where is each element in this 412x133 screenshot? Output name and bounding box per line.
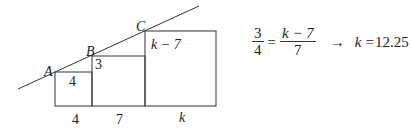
proportion-equation: 3 4 = k − 7 7 → k = 12.25 [250, 22, 409, 62]
middle-square-inner-label: 3 [95, 57, 102, 72]
result-value: 12.25 [375, 34, 409, 51]
result-variable: k [355, 34, 362, 51]
large-square-base-label: k [179, 110, 186, 125]
result-equals-sign: = [365, 34, 373, 51]
small-square-base-label: 4 [72, 112, 79, 127]
left-fraction: 3 4 [252, 25, 264, 59]
arrow-right-icon: → [330, 34, 345, 51]
left-numerator: 3 [252, 25, 264, 41]
right-fraction: k − 7 7 [280, 25, 316, 59]
middle-square-base-label: 7 [116, 112, 123, 127]
point-c-label: C [136, 19, 146, 34]
right-numerator: k − 7 [280, 25, 316, 41]
similar-triangles-diagram: A B C 4 3 k − 7 4 7 k [0, 0, 412, 133]
right-denominator: 7 [292, 42, 304, 59]
equals-sign: = [268, 34, 276, 51]
point-b-label: B [86, 44, 95, 59]
large-square-inner-label: k − 7 [151, 37, 182, 52]
small-square-inner-label: 4 [69, 74, 76, 89]
left-denominator: 4 [252, 42, 264, 59]
point-a-label: A [43, 64, 53, 79]
